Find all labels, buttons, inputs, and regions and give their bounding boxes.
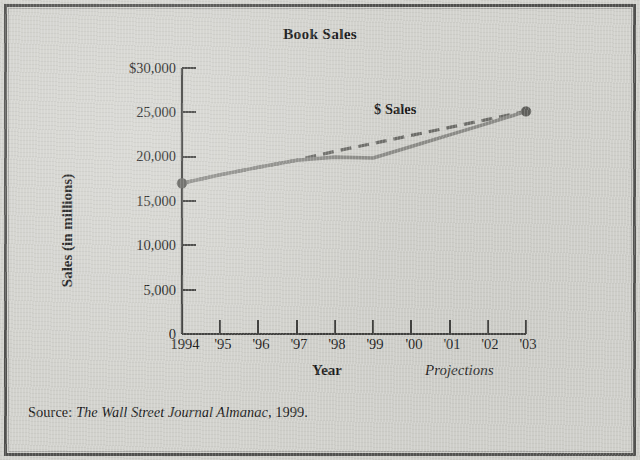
x-tick-label: '03 — [519, 336, 536, 353]
source-suffix: , 1999. — [268, 404, 308, 420]
series-marker — [521, 106, 531, 116]
series-markers — [177, 106, 531, 188]
x-tick-label: '95 — [214, 336, 231, 353]
source-publication: The Wall Street Journal Almanac — [76, 404, 268, 420]
source-note: Source: The Wall Street Journal Almanac,… — [28, 404, 308, 421]
x-tick-label: '02 — [481, 336, 498, 353]
projections-annotation: Projections — [425, 362, 494, 379]
x-axis-ticks — [182, 320, 526, 334]
source-prefix: Source: — [28, 404, 72, 420]
x-tick-label: '01 — [443, 336, 460, 353]
x-tick-label: '98 — [328, 336, 345, 353]
figure-panel: Book Sales Sales (in millions) $30,000 2… — [0, 0, 640, 460]
x-axis-title: Year — [312, 362, 342, 379]
x-tick-label: 1994 — [171, 336, 200, 353]
x-tick-label: '96 — [252, 336, 269, 353]
series-annotation-label: $ Sales — [374, 101, 416, 118]
plot-area — [0, 0, 640, 460]
series-marker — [177, 178, 187, 188]
x-tick-label: '97 — [290, 336, 307, 353]
x-tick-label: '99 — [366, 336, 383, 353]
x-tick-label: '00 — [405, 336, 422, 353]
